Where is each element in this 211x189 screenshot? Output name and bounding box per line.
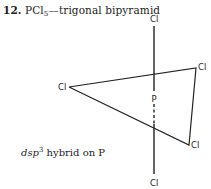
molecule-diagram: Cl Cl Cl Cl Cl P xyxy=(0,0,211,189)
hybridization-caption: dsp3 hybrid on P xyxy=(21,146,105,158)
cl-equatorial-right-bottom: Cl xyxy=(191,140,199,150)
cl-axial-top: Cl xyxy=(150,14,158,24)
cl-axial-bottom: Cl xyxy=(150,178,158,188)
cl-equatorial-right-top: Cl xyxy=(198,62,206,72)
equatorial-triangle xyxy=(69,68,196,145)
central-atom-p: P xyxy=(152,94,157,104)
cl-equatorial-left: Cl xyxy=(58,82,66,92)
